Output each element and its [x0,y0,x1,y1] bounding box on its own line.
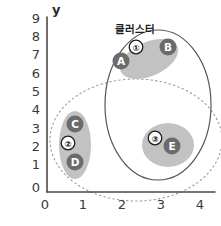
marker-label: C [71,118,79,130]
group-marker-3[interactable]: ③ [148,131,162,145]
x-tick-label: 3 [157,197,165,212]
y-tick-label: 4 [32,102,40,117]
cluster-caption: 클러스터 [115,23,155,35]
y-tick-label: 5 [32,84,40,99]
group-marker-label: ① [132,43,139,53]
y-tick-label: 0 [32,180,40,195]
data-point-d[interactable]: D [67,154,84,171]
x-tick-label: 1 [79,197,87,212]
marker-label: E [168,140,175,152]
y-tick-labels: 9 8 7 6 5 4 3 2 1 0 [32,11,40,195]
group-marker-label: ③ [151,134,158,144]
cluster-plot-svg: y 9 8 7 6 5 4 3 2 1 0 0 1 2 3 4 클러스터 [0,0,221,226]
y-tick-label: 6 [32,66,40,81]
y-tick-label: 9 [32,11,40,26]
y-tick-label: 7 [32,47,40,62]
x-tick-label: 4 [196,197,204,212]
marker-label: D [71,156,80,168]
marker-label: A [117,55,126,67]
group-marker-label: ② [64,139,71,149]
x-tick-label: 0 [41,197,49,212]
group-marker-1[interactable]: ① [129,40,143,54]
x-tick-label: 2 [118,197,126,212]
y-tick-label: 1 [32,157,40,172]
y-tick-label: 8 [32,29,40,44]
data-point-c[interactable]: C [67,116,84,133]
x-tick-labels: 0 1 2 3 4 [41,197,204,212]
marker-label: B [164,41,172,53]
y-tick-label: 3 [32,121,40,136]
y-tick-label: 2 [32,139,40,154]
data-point-e[interactable]: E [164,138,181,155]
data-point-a[interactable]: A [113,53,130,70]
data-point-b[interactable]: B [160,39,177,56]
group-marker-2[interactable]: ② [61,136,75,150]
y-axis-title: y [52,2,61,17]
cluster-scatter-figure: y 9 8 7 6 5 4 3 2 1 0 0 1 2 3 4 클러스터 [0,0,221,226]
